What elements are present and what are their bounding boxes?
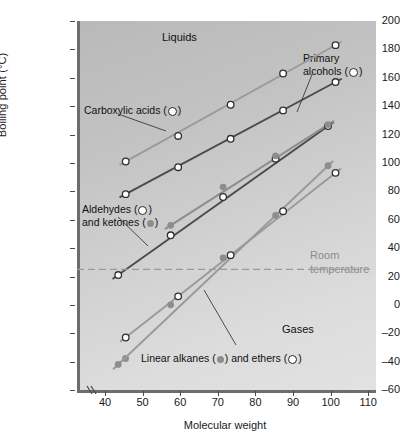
y-tick-mark-20: [70, 277, 75, 278]
y-tick-label-0: 0: [366, 298, 400, 310]
y-tick-label-40: 40: [366, 241, 400, 253]
ketones-text-pre: and ketones (: [82, 216, 146, 228]
x-tick-mark-50: [143, 391, 144, 396]
series-label-primary-alcohols: Primary alcohols (): [303, 52, 362, 78]
y-tick-label-120: 120: [366, 128, 400, 140]
y-tick-mark-minus40: [70, 362, 75, 363]
room-temperature-label-line2: temperature: [310, 263, 369, 275]
boiling-point-chart: Boiling point (°C) Molecular weight 200 …: [0, 0, 400, 439]
series-label-alkanes-ethers: Linear alkanes () and ethers (): [141, 352, 302, 365]
carboxylic-acids-text-post: ): [178, 104, 182, 116]
carboxylic-acids-text-pre: Carboxylic acids (: [84, 104, 167, 116]
y-tick-label-140: 140: [366, 99, 400, 111]
x-axis-title: Molecular weight: [77, 419, 373, 431]
y-tick-label-minus20: –20: [366, 326, 400, 338]
y-tick-label-20: 20: [366, 270, 400, 282]
y-tick-mark-0: [70, 305, 75, 306]
x-tick-mark-70: [218, 391, 219, 396]
y-tick-mark-minus60: [70, 390, 75, 391]
x-tick-mark-60: [180, 391, 181, 396]
alkanes-text-pre: Linear alkanes (: [141, 352, 216, 364]
x-tick-label-100: 100: [314, 396, 348, 408]
open-circle-icon: [349, 68, 358, 77]
y-tick-label-60: 60: [366, 213, 400, 225]
aldehydes-text-post: ): [148, 203, 152, 215]
region-label-liquids: Liquids: [162, 31, 197, 43]
y-tick-label-200: 200: [366, 14, 400, 26]
x-tick-mark-40: [105, 391, 106, 396]
x-tick-label-60: 60: [163, 396, 197, 408]
y-tick-label-minus60: –60: [366, 383, 400, 395]
x-tick-mark-90: [293, 391, 294, 396]
primary-alcohols-text-pre: alcohols (: [303, 65, 348, 77]
alkanes-text-post: ): [298, 352, 302, 364]
ketones-text-post: ): [155, 216, 159, 228]
y-tick-mark-100: [70, 163, 75, 164]
filled-circle-icon: [217, 356, 224, 363]
y-tick-mark-80: [70, 191, 75, 192]
x-tick-mark-110: [368, 391, 369, 396]
x-tick-label-90: 90: [276, 396, 310, 408]
y-tick-label-100: 100: [366, 156, 400, 168]
primary-alcohols-text-line1: Primary: [303, 52, 339, 64]
x-tick-label-80: 80: [238, 396, 272, 408]
y-tick-mark-180: [70, 49, 75, 50]
y-tick-label-minus40: –40: [366, 355, 400, 367]
region-label-gases: Gases: [282, 323, 314, 335]
y-tick-mark-minus20: [70, 333, 75, 334]
filled-circle-icon: [147, 220, 154, 227]
y-tick-mark-40: [70, 248, 75, 249]
alkanes-legend-dot-icon: [122, 355, 129, 362]
x-tick-label-40: 40: [88, 396, 122, 408]
primary-alcohols-text-post: ): [359, 65, 363, 77]
open-circle-icon: [138, 206, 147, 215]
alkanes-text-mid: ) and ethers (: [225, 352, 287, 364]
x-tick-label-70: 70: [201, 396, 235, 408]
series-label-carboxylic-acids: Carboxylic acids (): [84, 104, 181, 117]
y-tick-mark-140: [70, 106, 75, 107]
room-temperature-label-line1: Room: [310, 249, 339, 261]
aldehydes-text-pre: Aldehydes (: [82, 203, 137, 215]
y-tick-label-80: 80: [366, 184, 400, 196]
x-tick-label-50: 50: [126, 396, 160, 408]
y-tick-label-160: 160: [366, 71, 400, 83]
y-tick-mark-160: [70, 78, 75, 79]
open-circle-icon: [168, 107, 177, 116]
y-tick-mark-120: [70, 135, 75, 136]
room-temperature-label: Room temperature: [310, 248, 369, 276]
y-tick-label-180: 180: [366, 42, 400, 54]
series-label-aldehydes-ketones: Aldehydes () and ketones (): [82, 203, 158, 229]
y-axis-title: Boiling point (°C): [0, 25, 8, 165]
x-tick-mark-100: [331, 391, 332, 396]
y-tick-mark-200: [70, 21, 75, 22]
x-tick-label-110: 110: [351, 396, 385, 408]
y-tick-mark-60: [70, 220, 75, 221]
open-circle-icon: [288, 355, 297, 364]
x-tick-mark-80: [255, 391, 256, 396]
